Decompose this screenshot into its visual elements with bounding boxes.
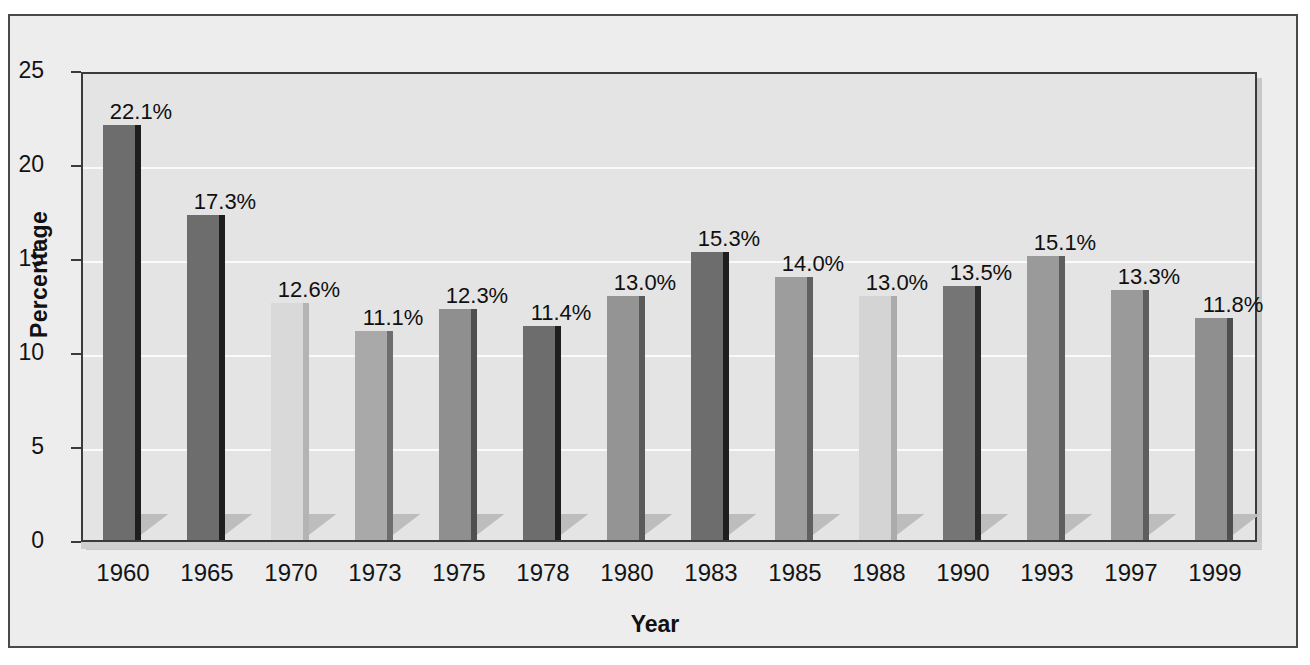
bar-side-face [387,331,393,540]
bar-side-face [807,277,813,540]
x-axis-tick-label: 1999 [1155,559,1275,587]
y-axis-tick-mark [71,541,81,543]
y-axis-title: Percentage [26,75,53,475]
bar [355,331,387,540]
bar-body [1027,256,1059,540]
bar-value-label: 15.1% [995,230,1135,256]
y-axis-tick-mark [71,259,81,261]
bar-body [775,277,807,540]
bar-body [859,296,891,540]
bar-body [943,286,975,540]
bar-side-face [1143,290,1149,540]
bar-body [439,309,471,540]
bar-side-face [1059,256,1065,540]
bar [1195,318,1227,540]
bar-value-label: 11.8% [1163,292,1303,318]
bar [523,326,555,540]
bar [943,286,975,540]
bar-body [271,303,303,540]
y-axis-tick-mark [71,447,81,449]
y-axis-tick-mark [71,165,81,167]
figure-outer-frame: 22.1%17.3%12.6%11.1%12.3%11.4%13.0%15.3%… [8,14,1298,648]
bar-body [523,326,555,540]
x-axis-title: Year [10,611,1300,638]
bar-side-face [975,286,981,540]
bar [187,215,219,540]
bar-value-label: 12.6% [239,277,379,303]
bar-body [607,296,639,540]
y-axis-tick-mark [71,71,81,73]
bar-side-face [471,309,477,540]
y-axis-tick-mark [71,353,81,355]
bar-value-label: 13.3% [1079,264,1219,290]
bar [103,125,135,540]
bar-side-face [555,326,561,540]
bar [1111,290,1143,540]
bar-side-face [723,252,729,540]
bar-side-face [639,296,645,540]
bar-value-label: 22.1% [71,99,211,125]
bar-body [103,125,135,540]
bar-body [1195,318,1227,540]
bar-body [355,331,387,540]
bar [439,309,471,540]
bar-side-face [219,215,225,540]
gridline [83,261,1255,263]
bar-body [691,252,723,540]
y-axis-tick-label: 0 [0,527,44,554]
bar [607,296,639,540]
bar-body [187,215,219,540]
gridline [83,167,1255,169]
bar-body [1111,290,1143,540]
bar-side-face [1227,318,1233,540]
bar-side-face [135,125,141,540]
bar-side-face [891,296,897,540]
bar [271,303,303,540]
bar [691,252,723,540]
bar [859,296,891,540]
bar [1027,256,1059,540]
bar-value-label: 15.3% [659,226,799,252]
bar [775,277,807,540]
gridline [83,449,1255,451]
bar-value-label: 17.3% [155,189,295,215]
bar-side-face [303,303,309,540]
baseline-strip [81,542,1262,549]
plot-area: 22.1%17.3%12.6%11.1%12.3%11.4%13.0%15.3%… [81,72,1257,542]
chart-figure: 22.1%17.3%12.6%11.1%12.3%11.4%13.0%15.3%… [0,0,1310,665]
gridline [83,355,1255,357]
